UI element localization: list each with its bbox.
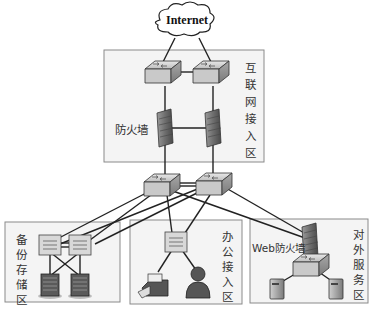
svg-text:入: 入 <box>245 129 257 143</box>
web-firewall-label: Web防火墙 <box>252 242 306 254</box>
backup-switch-2 <box>69 235 91 255</box>
svg-text:区: 区 <box>16 293 27 307</box>
office-switch <box>165 232 187 252</box>
internet-firewall-1 <box>157 109 173 147</box>
svg-text:办: 办 <box>222 230 234 244</box>
svg-text:区: 区 <box>245 146 256 160</box>
core-switch-1 <box>144 174 180 196</box>
svg-text:储: 储 <box>16 278 28 292</box>
network-diagram: Internet 防火墙 互 联 网 接 入 区 备 份 存 储 区 办 公 <box>0 0 374 316</box>
core-switch-2 <box>196 173 232 195</box>
svg-text:服: 服 <box>353 258 365 272</box>
storage-server-2 <box>68 274 92 299</box>
internet-firewall-2 <box>205 109 221 147</box>
svg-text:存: 存 <box>16 263 27 277</box>
svg-text:公: 公 <box>222 245 234 259</box>
svg-text:务: 务 <box>353 273 365 287</box>
service-server-2 <box>329 279 343 299</box>
internet-label: Internet <box>166 13 208 27</box>
internet-switch-2 <box>193 61 229 83</box>
backup-switch-1 <box>39 235 61 255</box>
service-switch <box>293 254 329 276</box>
svg-text:互: 互 <box>245 61 256 75</box>
backup-storage-zone-label: 备 份 存 储 区 <box>16 233 28 307</box>
internet-switch-1 <box>145 61 181 83</box>
service-server-1 <box>270 279 284 299</box>
svg-text:份: 份 <box>16 248 28 262</box>
internet-access-zone <box>104 50 264 162</box>
svg-text:入: 入 <box>222 275 234 289</box>
svg-text:备: 备 <box>16 233 28 247</box>
svg-text:接: 接 <box>245 112 257 126</box>
svg-text:网: 网 <box>245 95 256 109</box>
svg-text:外: 外 <box>353 243 365 257</box>
svg-text:接: 接 <box>222 260 234 274</box>
svg-text:区: 区 <box>222 290 233 304</box>
office-access-zone-label: 办 公 接 入 区 <box>222 230 234 304</box>
external-service-zone-label: 对 外 服 务 区 <box>353 228 365 302</box>
internet-cloud: Internet <box>155 2 214 36</box>
storage-server-1 <box>38 274 62 299</box>
svg-text:联: 联 <box>245 78 257 92</box>
svg-text:区: 区 <box>353 288 364 302</box>
firewall-label: 防火墙 <box>115 123 149 137</box>
svg-text:对: 对 <box>353 228 365 242</box>
